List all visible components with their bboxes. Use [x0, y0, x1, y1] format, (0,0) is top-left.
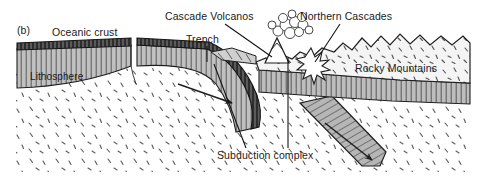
- label-lithosphere: Lithosphere: [30, 72, 83, 82]
- label-cascade-volcanos: Cascade Volcanos: [165, 11, 254, 22]
- label-trench: Trench: [186, 34, 219, 45]
- label-northern-cascades: Northern Cascades: [300, 11, 392, 22]
- subduction-zone-figure: (b) Oceanic crust Lithosphere Trench Cas…: [0, 0, 477, 187]
- panel-label: (b): [17, 25, 30, 36]
- label-subduction-complex: Subduction complex: [217, 150, 313, 161]
- label-oceanic-crust: Oceanic crust: [52, 27, 118, 38]
- label-rocky-mountains: Rocky Mountains: [355, 63, 437, 74]
- volcano-cone: [265, 38, 289, 63]
